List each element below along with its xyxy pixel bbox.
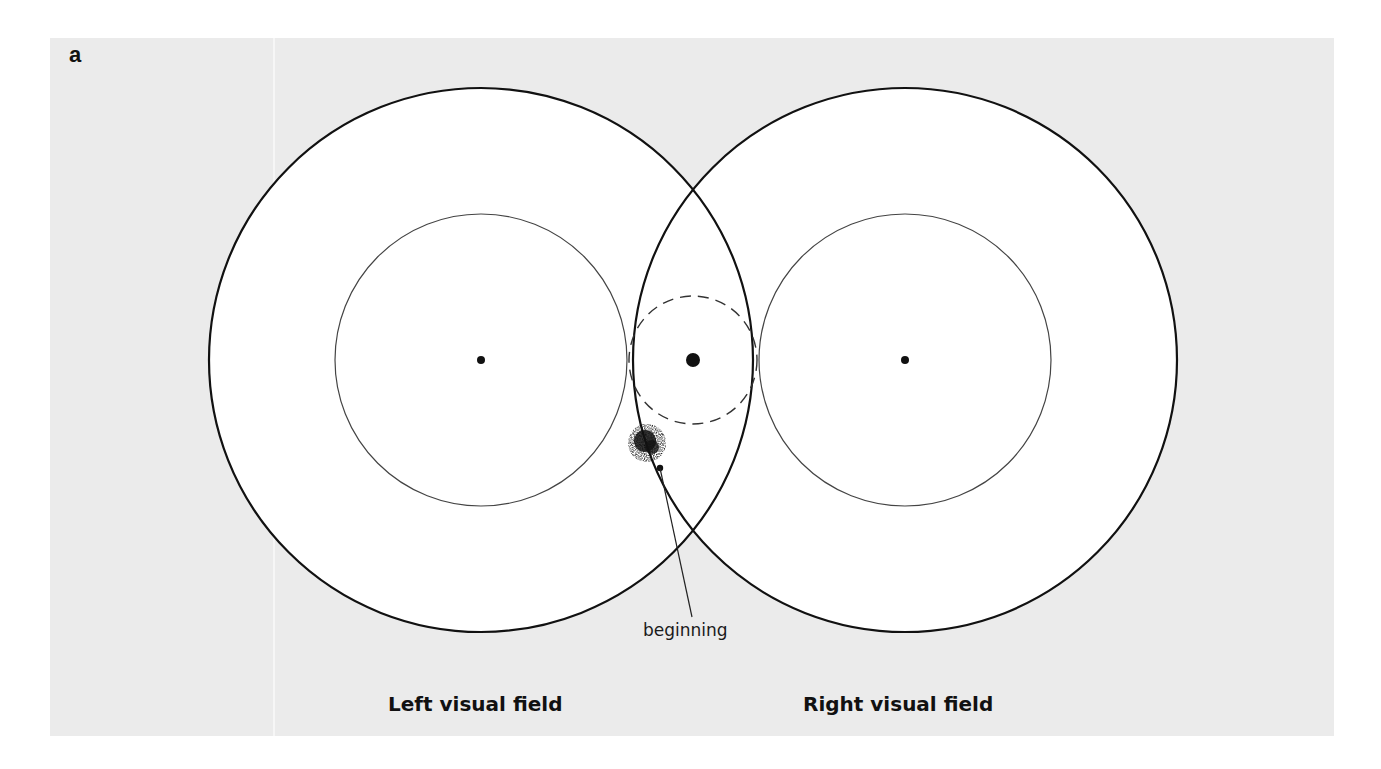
beginning-annotation: beginning [643, 622, 728, 639]
left-visual-field-label: Left visual field [388, 694, 562, 714]
left-fixation-dot [477, 356, 485, 364]
panel-label: a [69, 44, 81, 66]
right-fixation-dot [901, 356, 909, 364]
center-fixation-dot [686, 353, 700, 367]
right-visual-field-label: Right visual field [803, 694, 993, 714]
scotoma-blob [628, 424, 666, 462]
visual-field-diagram [0, 0, 1381, 769]
